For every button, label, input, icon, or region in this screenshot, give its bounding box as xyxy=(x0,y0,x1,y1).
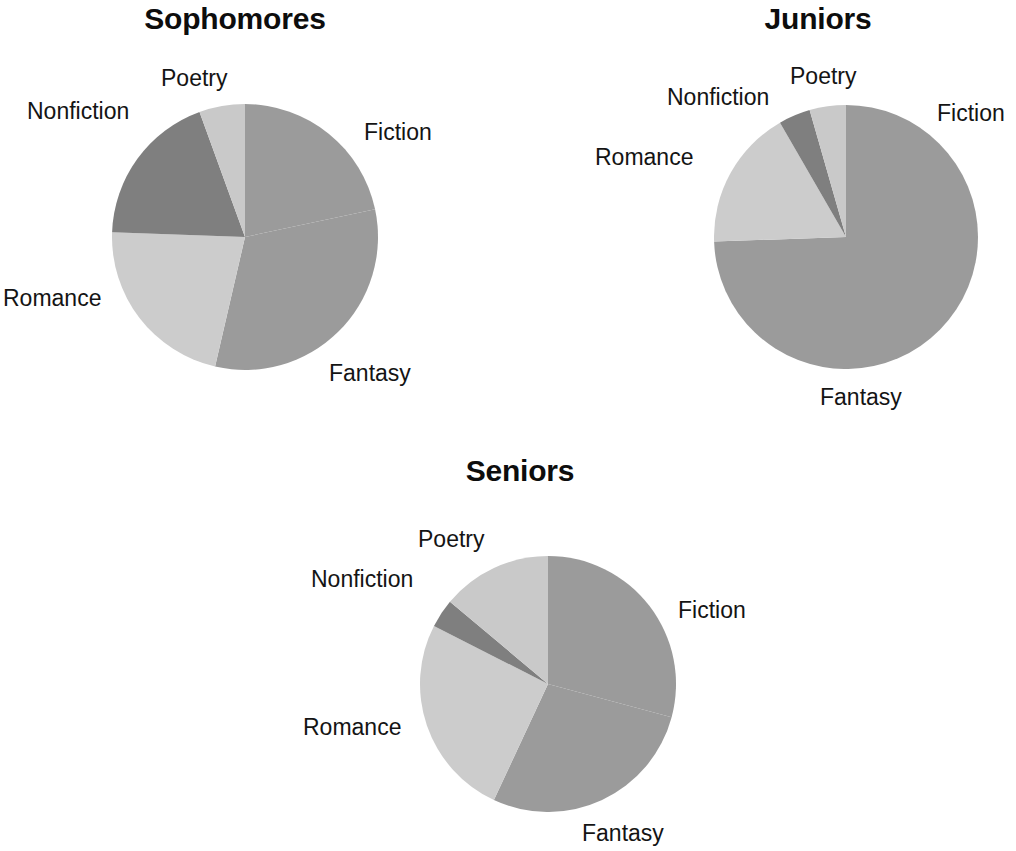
pie-slices-juniors xyxy=(714,105,978,369)
slice-label-juniors-romance: Romance xyxy=(595,145,693,170)
slice-label-seniors-poetry: Poetry xyxy=(418,527,484,552)
slice-label-sophomores-fantasy: Fantasy xyxy=(329,361,411,386)
slice-label-juniors-fiction: Fiction xyxy=(937,101,1005,126)
slice-label-sophomores-fiction: Fiction xyxy=(364,120,432,145)
slice-label-juniors-poetry: Poetry xyxy=(790,64,856,89)
pie-slices-sophomores xyxy=(112,104,378,370)
pie-svg-sophomores xyxy=(112,104,378,370)
pie-chart-seniors xyxy=(420,556,676,812)
pie-chart-figure: Sophomores Fiction Fantasy Romance Nonfi… xyxy=(0,0,1016,851)
pie-chart-sophomores xyxy=(112,104,378,370)
slice-label-seniors-fantasy: Fantasy xyxy=(582,821,664,846)
chart-title-seniors: Seniors xyxy=(300,455,740,487)
slice-label-seniors-romance: Romance xyxy=(303,715,401,740)
chart-title-juniors: Juniors xyxy=(620,3,1016,35)
pie-chart-juniors xyxy=(714,105,978,369)
slice-label-seniors-fiction: Fiction xyxy=(678,598,746,623)
pie-slice-juniors-fantasy xyxy=(714,237,978,369)
pie-slices-seniors xyxy=(420,556,676,812)
chart-title-sophomores: Sophomores xyxy=(0,3,470,35)
slice-label-sophomores-romance: Romance xyxy=(3,286,101,311)
slice-label-sophomores-poetry: Poetry xyxy=(161,66,227,91)
slice-label-juniors-fantasy: Fantasy xyxy=(820,385,902,410)
pie-svg-seniors xyxy=(420,556,676,812)
slice-label-juniors-nonfiction: Nonfiction xyxy=(667,85,769,110)
pie-svg-juniors xyxy=(714,105,978,369)
chart-panel-sophomores: Sophomores Fiction Fantasy Romance Nonfi… xyxy=(0,0,470,430)
slice-label-seniors-nonfiction: Nonfiction xyxy=(311,567,413,592)
slice-label-sophomores-nonfiction: Nonfiction xyxy=(27,99,129,124)
